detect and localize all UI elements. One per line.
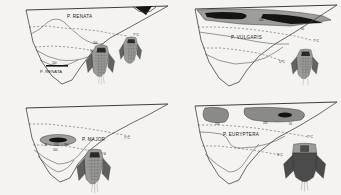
abundance-number: 100 — [54, 143, 59, 147]
abundance-number: 50 — [289, 122, 292, 126]
abundance-number: 100 — [140, 8, 145, 12]
isotherm-label-7c: 7°C — [124, 136, 130, 140]
contour-abundance-lower — [205, 47, 283, 64]
sea-surface-line — [195, 102, 337, 106]
shaded-zone-core-bar — [46, 65, 68, 67]
abundance-number: 100 — [295, 20, 300, 24]
abundance-number: 100 — [215, 122, 220, 126]
panel-top-left: P. RENATA P. RENATA 7°C 5°C 100 200 50 1… — [0, 0, 170, 97]
species-label: P. MAJOR — [82, 137, 106, 142]
species-label: P. RENATA — [67, 14, 93, 19]
species-label-secondary: P. RENATA — [40, 69, 62, 74]
sea-surface-line — [26, 104, 168, 108]
specimen-drawing — [291, 49, 318, 85]
abundance-number: 200 — [263, 121, 268, 125]
panel-top-right: P. VULGARIS 7°C 5°C 100 200 100 50 — [171, 0, 341, 97]
sea-surface-line — [195, 5, 337, 9]
abundance-number: 100 — [213, 16, 218, 20]
panel-bottom-right: P. EURYPTERA 7°C 5°C 100 200 50 — [171, 98, 341, 195]
species-label: P. VULGARIS — [231, 35, 262, 40]
isotherm-label-7c: 7°C — [133, 33, 139, 37]
abundance-number: 100 — [52, 61, 57, 65]
shaded-zone-grey-blob-center — [244, 107, 305, 122]
figure-panel-grid: P. RENATA P. RENATA 7°C 5°C 100 200 50 1… — [0, 0, 341, 195]
abundance-number: 200 — [259, 18, 264, 22]
shaded-zone-grey-blob-left — [203, 107, 229, 122]
specimen-drawing — [284, 143, 326, 191]
shaded-zone-dark-core — [49, 137, 67, 142]
isotherm-label-7c: 7°C — [307, 135, 313, 139]
panel-bottom-left: P. MAJOR 7°C 5°C 50 100 200 500 — [0, 98, 170, 195]
abundance-number: 500 — [53, 148, 58, 152]
abundance-number: 50 — [301, 27, 304, 31]
contour-abundance-lower — [205, 144, 259, 172]
abundance-number: 200 — [93, 41, 98, 45]
specimen-drawing — [119, 37, 141, 63]
contour-abundance-upper — [31, 19, 104, 44]
abundance-number: 200 — [64, 143, 69, 147]
isotherm-label-7c: 7°C — [313, 39, 319, 43]
isotherm-label-5c: 5°C — [277, 153, 283, 157]
abundance-number: 50 — [44, 143, 47, 147]
isotherm-7c-line — [29, 26, 128, 36]
isotherm-5c-line — [202, 146, 281, 155]
isotherm-7c-line — [29, 124, 130, 136]
isotherm-label-5c: 5°C — [279, 60, 285, 64]
shaded-zone-dark-core — [278, 112, 292, 117]
species-label: P. EURYPTERA — [223, 132, 260, 137]
